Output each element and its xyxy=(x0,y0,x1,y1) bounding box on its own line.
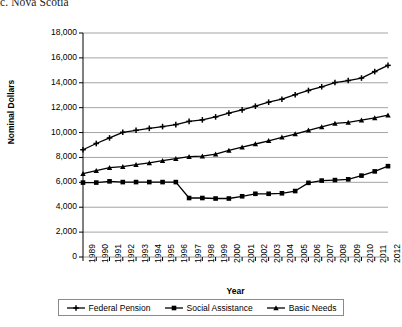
data-point-marker xyxy=(107,135,113,141)
data-point-marker xyxy=(279,96,285,102)
plot-area xyxy=(0,0,402,327)
data-point-marker xyxy=(332,80,338,86)
data-point-marker xyxy=(292,92,298,98)
data-point-marker xyxy=(253,191,258,196)
data-point-marker xyxy=(174,180,179,185)
data-point-marker xyxy=(120,180,125,185)
legend-label: Social Assistance xyxy=(187,303,253,313)
cross-marker xyxy=(66,303,86,313)
data-point-marker xyxy=(346,177,351,182)
data-point-marker xyxy=(160,180,165,185)
series-line xyxy=(83,115,388,173)
legend-label: Federal Pension xyxy=(89,303,151,313)
data-point-marker xyxy=(147,126,153,132)
legend-item: Social Assistance xyxy=(162,303,255,313)
data-point-marker xyxy=(213,114,219,120)
data-point-marker xyxy=(240,194,245,199)
data-point-marker xyxy=(306,181,311,186)
legend-item: Federal Pension xyxy=(64,303,153,313)
legend-label: Basic Needs xyxy=(289,303,337,313)
data-point-marker xyxy=(385,63,391,69)
data-point-marker xyxy=(107,179,112,184)
data-point-marker xyxy=(280,191,285,196)
data-point-marker xyxy=(160,124,166,130)
data-point-marker xyxy=(319,84,325,90)
data-point-marker xyxy=(226,110,232,116)
data-point-marker xyxy=(147,180,152,185)
data-point-marker xyxy=(372,169,377,174)
data-point-marker xyxy=(386,164,391,169)
data-point-marker xyxy=(187,196,192,201)
data-point-marker xyxy=(319,178,324,183)
data-point-marker xyxy=(134,180,139,185)
data-point-marker xyxy=(173,122,179,128)
chart-legend: Federal PensionSocial AssistanceBasic Ne… xyxy=(58,299,344,316)
data-point-marker xyxy=(200,117,206,123)
data-point-marker xyxy=(359,173,364,178)
legend-item: Basic Needs xyxy=(264,303,339,313)
data-point-marker xyxy=(80,147,86,153)
chart-figure: c. Nova Scotia Nominal Dollars Year 02,0… xyxy=(0,0,402,327)
data-point-marker xyxy=(359,75,365,81)
data-point-marker xyxy=(200,196,205,201)
data-point-marker xyxy=(93,141,99,147)
data-point-marker xyxy=(227,196,232,201)
triangle-marker xyxy=(266,303,286,313)
data-point-marker xyxy=(372,69,378,75)
data-point-marker xyxy=(266,99,272,105)
square-marker xyxy=(164,303,184,313)
data-point-marker xyxy=(306,88,312,94)
data-point-marker xyxy=(94,180,99,185)
data-point-marker xyxy=(213,196,218,201)
data-point-marker xyxy=(81,180,86,185)
data-point-marker xyxy=(293,189,298,194)
data-point-marker xyxy=(253,103,259,109)
data-point-marker xyxy=(120,130,126,136)
data-point-marker xyxy=(186,119,192,125)
data-point-marker xyxy=(266,191,271,196)
data-point-marker xyxy=(333,178,338,183)
